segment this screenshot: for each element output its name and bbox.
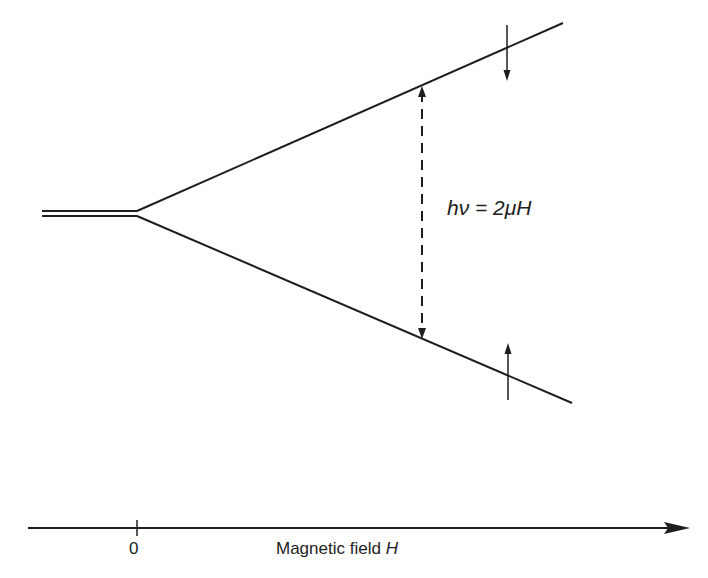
upper-energy-level: [137, 23, 563, 211]
magnetic-field-axis: [28, 520, 690, 536]
transition-arrow: [418, 86, 426, 339]
zeeman-diagram: [0, 0, 708, 578]
axis-label: Magnetic field H: [276, 539, 398, 559]
spin-down-arrow-icon: [504, 25, 511, 81]
axis-label-text: Magnetic field: [276, 539, 386, 558]
lower-energy-level: [137, 216, 572, 403]
axis-label-symbol: H: [386, 539, 398, 558]
spin-up-arrow-icon: [505, 343, 512, 400]
energy-gap-formula: hν = 2μH: [447, 196, 531, 220]
degenerate-level: [42, 211, 137, 216]
origin-label: 0: [129, 539, 138, 559]
